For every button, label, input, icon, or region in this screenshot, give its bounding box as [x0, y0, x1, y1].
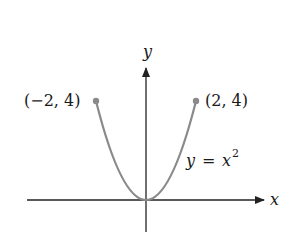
equation-lhs: y: [185, 151, 196, 170]
point-left-marker: [93, 98, 99, 104]
equation-equals: =: [202, 151, 215, 170]
y-axis-label: y: [142, 42, 153, 61]
equation-exponent: 2: [232, 147, 239, 160]
equation-label: y = x 2: [185, 147, 239, 170]
equation-base: x: [222, 151, 231, 170]
point-left-label: (−2, 4): [24, 91, 80, 110]
point-right-marker: [193, 98, 199, 104]
parabola-figure: y x (−2, 4) (2, 4) y = x 2: [0, 0, 298, 239]
x-axis-label: x: [270, 190, 279, 209]
point-right-label: (2, 4): [205, 91, 248, 110]
